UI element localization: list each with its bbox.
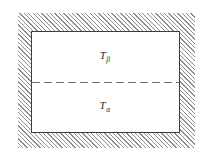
phase-interface-dashed-line [32,82,179,83]
phase-label-beta: Tβ [100,50,111,64]
phase-label-alpha-subscript: α [106,105,110,114]
phase-label-beta-subscript: β [106,55,110,64]
phase-label-alpha-symbol: T [100,99,106,111]
phase-label-alpha: Tα [100,100,111,114]
figure-canvas: Tβ Tα [0,0,208,156]
phase-label-beta-symbol: T [100,49,106,61]
